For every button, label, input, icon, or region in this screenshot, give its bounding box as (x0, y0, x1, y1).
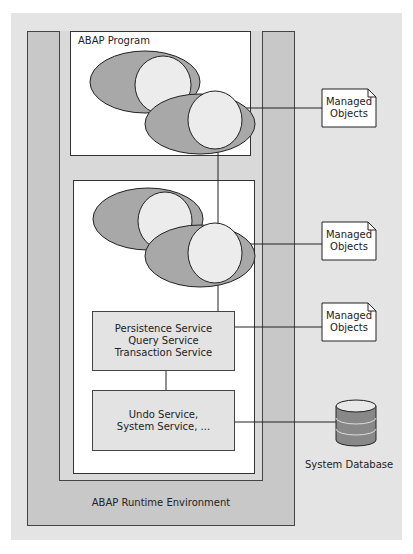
object-pair-icon-top (90, 51, 255, 154)
runtime-environment-label: ABAP Runtime Environment (27, 497, 295, 508)
managed-objects-label-2: Managed Objects (322, 222, 376, 260)
service-line: Transaction Service (115, 347, 212, 359)
managed-objects-label-1: Managed Objects (322, 89, 376, 127)
label-line: Managed (326, 310, 372, 322)
label-line: Managed (326, 96, 372, 108)
system-database-label: System Database (305, 459, 393, 470)
object-pair-icon-bottom (93, 188, 255, 287)
label-line: Objects (330, 108, 368, 120)
undo-system-services-box: Undo Service, System Service, ... (92, 390, 235, 451)
diagram-graphics (0, 0, 413, 554)
service-line: Persistence Service (115, 323, 212, 335)
managed-objects-label-3: Managed Objects (322, 303, 376, 341)
service-line: System Service, ... (117, 421, 210, 433)
persistence-services-box: Persistence Service Query Service Transa… (92, 311, 235, 371)
label-line: Objects (330, 241, 368, 253)
service-line: Query Service (128, 335, 199, 347)
label-line: Managed (326, 229, 372, 241)
database-icon (336, 400, 376, 446)
service-line: Undo Service, (129, 409, 198, 421)
label-line: Objects (330, 322, 368, 334)
